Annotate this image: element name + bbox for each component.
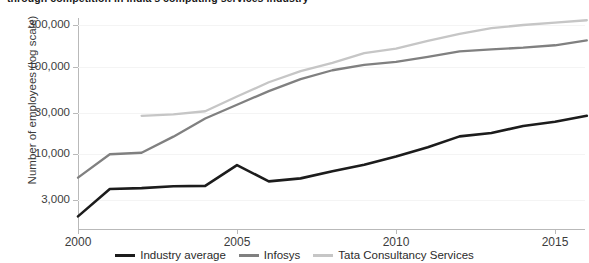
x-tick-label: 2005 [207, 235, 267, 249]
series-layer [0, 0, 589, 263]
legend-label: Infosys [264, 249, 300, 261]
x-tick-mark [555, 229, 556, 234]
x-tick-mark [237, 229, 238, 234]
x-tick-label: 2015 [525, 235, 585, 249]
legend-swatch-icon [313, 254, 333, 257]
x-tick-label: 2010 [366, 235, 426, 249]
chart-container: through competition in India's computing… [0, 0, 589, 263]
series-line-industry-average [78, 116, 587, 217]
legend-item[interactable]: Industry average [115, 249, 226, 261]
legend-swatch-icon [239, 254, 259, 257]
legend-item[interactable]: Infosys [239, 249, 300, 261]
y-tick-label: 10,000 [2, 147, 70, 159]
y-tick-label: 100,000 [2, 60, 70, 72]
y-tick-label: 30,000 [2, 106, 70, 118]
chart-legend: Industry averageInfosysTata Consultancy … [0, 249, 589, 261]
y-tick-label: 3,000 [2, 193, 70, 205]
x-tick-label: 2000 [48, 235, 108, 249]
legend-label: Tata Consultancy Services [338, 249, 474, 261]
series-line-infosys [78, 40, 587, 177]
x-tick-mark [396, 229, 397, 234]
series-line-tata-consultancy-services [142, 20, 587, 116]
legend-swatch-icon [115, 254, 135, 257]
legend-item[interactable]: Tata Consultancy Services [313, 249, 474, 261]
x-tick-mark [78, 229, 79, 234]
legend-label: Industry average [140, 249, 226, 261]
y-tick-label: 300,000 [2, 18, 70, 30]
